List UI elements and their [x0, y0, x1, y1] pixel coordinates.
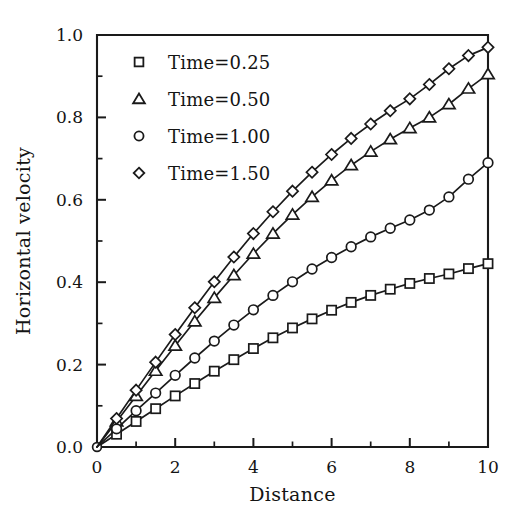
data-point-marker [288, 277, 298, 287]
data-point-marker [365, 146, 377, 156]
y-tick-label: 1.0 [56, 25, 83, 45]
data-point-marker [249, 305, 259, 315]
x-axis-ticks [97, 438, 488, 447]
y-tick-label: 0.2 [56, 355, 83, 375]
data-point-marker [132, 417, 141, 426]
data-point-marker [366, 291, 375, 300]
legend-label: Time=1.00 [168, 126, 270, 147]
data-point-marker [405, 279, 414, 288]
data-point-marker [131, 406, 141, 416]
chart-legend: Time=0.25Time=0.50Time=1.00Time=1.50 [133, 52, 270, 184]
legend-label: Time=0.50 [168, 89, 270, 110]
data-point-marker [425, 274, 434, 283]
data-point-marker [190, 379, 199, 388]
data-series [97, 42, 494, 447]
legend-marker-diamond [134, 168, 145, 179]
y-tick-label: 0.6 [56, 190, 83, 210]
data-series [93, 259, 493, 451]
data-point-marker [151, 388, 161, 398]
data-point-marker [386, 285, 395, 294]
x-axis-tick-labels: 0246810 [92, 457, 499, 477]
data-point-marker [229, 320, 239, 330]
legend-marker-square [135, 58, 144, 67]
data-point-marker [151, 404, 160, 413]
data-point-marker [268, 291, 278, 301]
data-point-marker [464, 174, 474, 184]
data-point-marker [444, 269, 453, 278]
data-point-marker [404, 122, 416, 132]
legend-label: Time=0.25 [168, 52, 270, 73]
data-point-marker [307, 264, 317, 274]
data-point-marker [268, 333, 277, 342]
data-point-marker [170, 371, 180, 381]
data-point-marker [288, 323, 297, 332]
data-point-marker [385, 223, 395, 233]
x-tick-label: 0 [92, 457, 103, 477]
data-point-marker [384, 134, 396, 144]
data-point-marker [405, 215, 415, 225]
data-point-marker [307, 314, 316, 323]
line-chart: 0246810 0.00.20.40.60.81.0 Distance Hori… [0, 0, 522, 517]
data-point-marker [483, 158, 493, 168]
data-point-marker [425, 205, 435, 215]
data-point-marker [385, 105, 396, 116]
data-point-marker [444, 192, 454, 202]
data-point-marker [482, 42, 493, 53]
data-point-marker [229, 355, 238, 364]
data-point-marker [345, 159, 357, 169]
data-point-marker [423, 112, 435, 122]
plot-frame [97, 35, 488, 447]
data-point-marker [249, 344, 258, 353]
y-axis-title: Horizontal velocity [12, 147, 34, 335]
y-tick-label: 0.0 [56, 437, 83, 457]
data-point-marker [210, 367, 219, 376]
data-point-marker [170, 329, 181, 340]
y-axis-tick-labels: 0.00.20.40.60.81.0 [56, 25, 83, 457]
x-tick-label: 2 [170, 457, 181, 477]
data-point-marker [347, 298, 356, 307]
data-point-marker [483, 259, 492, 268]
data-point-marker [112, 424, 122, 434]
data-point-marker [327, 253, 337, 263]
data-point-marker [482, 68, 494, 78]
data-point-marker [210, 336, 220, 346]
data-point-marker [190, 353, 200, 363]
figure-container: 0246810 0.00.20.40.60.81.0 Distance Hori… [0, 0, 522, 517]
series-line [97, 47, 488, 447]
x-tick-label: 10 [477, 457, 499, 477]
legend-marker-circle [134, 131, 143, 140]
data-point-marker [346, 242, 356, 252]
y-tick-label: 0.4 [56, 272, 83, 292]
y-tick-label: 0.8 [56, 107, 83, 127]
data-point-marker [366, 232, 376, 242]
data-point-marker [171, 391, 180, 400]
data-point-marker [327, 306, 336, 315]
data-point-marker [131, 385, 142, 396]
x-tick-label: 6 [326, 457, 337, 477]
x-tick-label: 4 [248, 457, 259, 477]
data-point-marker [463, 50, 474, 61]
data-point-marker [464, 264, 473, 273]
x-tick-label: 8 [404, 457, 415, 477]
legend-label: Time=1.50 [168, 163, 270, 184]
y-axis-ticks [97, 35, 106, 447]
x-axis-title: Distance [249, 483, 336, 505]
data-series-group [93, 42, 495, 452]
legend-marker-triangle [133, 94, 145, 104]
